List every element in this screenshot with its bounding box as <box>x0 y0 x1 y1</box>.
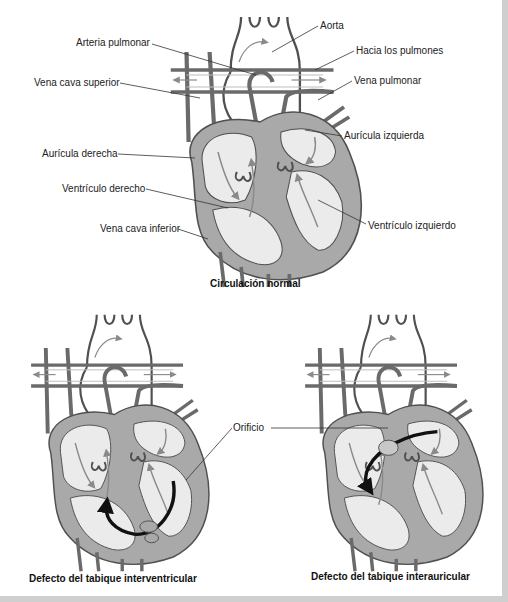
label-auricula-izquierda: Aurícula izquierda <box>344 130 424 142</box>
label-arteria-pulmonar: Arteria pulmonar <box>76 37 150 49</box>
heart-diagrams <box>0 0 508 602</box>
label-vena-cava-superior: Vena cava superior <box>34 77 120 89</box>
label-auricula-derecha: Aurícula derecha <box>42 148 118 160</box>
label-aorta: Aorta <box>320 20 344 32</box>
caption-circulacion-normal: Circulación normal <box>210 278 301 289</box>
label-ventriculo-derecho: Ventrículo derecho <box>62 183 145 195</box>
caption-defecto-interauricular: Defecto del tabique interauricular <box>311 571 470 582</box>
label-vena-pulmonar: Vena pulmonar <box>354 75 421 87</box>
heart-asd <box>305 315 483 572</box>
heart-vsd <box>31 315 209 572</box>
label-orificio: Orificio <box>233 422 264 434</box>
label-hacia-los-pulmones: Hacia los pulmones <box>356 45 443 57</box>
label-vena-cava-inferior: Vena cava inferior <box>100 223 180 235</box>
label-ventriculo-izquierdo: Ventrículo izquierdo <box>368 220 456 232</box>
caption-defecto-interventricular: Defecto del tabique interventricular <box>29 573 197 584</box>
heart-normal <box>171 17 361 287</box>
